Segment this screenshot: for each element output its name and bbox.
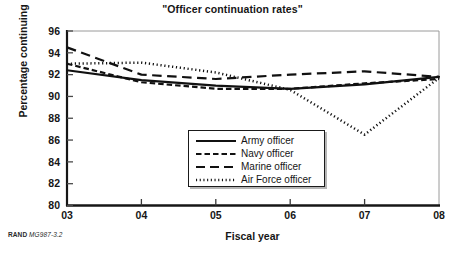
series-line <box>67 64 439 89</box>
x-tick-label: 05 <box>210 209 222 221</box>
data-series-group <box>67 47 439 134</box>
x-tick-label: 04 <box>136 209 148 221</box>
y-tick-label: 86 <box>48 134 60 146</box>
legend-swatch-long-dash-icon <box>194 161 238 173</box>
y-tick-label: 92 <box>48 68 60 80</box>
x-tick-label: 06 <box>284 209 296 221</box>
legend-swatch-dotted-icon <box>194 174 238 186</box>
legend-item: Navy officer <box>194 147 320 160</box>
y-axis-ticks: 808284868890929496 <box>48 25 73 212</box>
y-tick-label: 94 <box>48 47 60 59</box>
legend-item-label: Navy officer <box>238 148 294 160</box>
legend-swatch-solid-icon <box>194 135 238 147</box>
plot-area: 808284868890929496 030405060708 <box>0 0 465 254</box>
legend-item-label: Army officer <box>238 135 294 147</box>
y-tick-label: 82 <box>48 177 60 189</box>
legend-item-label: Air Force officer <box>238 174 311 186</box>
source-note: RAND MG987-3.2 <box>8 231 63 238</box>
legend: Army officer Navy officer Marine officer… <box>188 130 325 187</box>
series-line <box>67 47 439 79</box>
y-tick-label: 84 <box>48 156 60 168</box>
figure-container: "Officer continuation rates" Percentage … <box>0 0 465 254</box>
y-tick-label: 80 <box>48 199 60 211</box>
legend-item: Army officer <box>194 134 320 147</box>
y-tick-label: 90 <box>48 90 60 102</box>
y-tick-label: 88 <box>48 112 60 124</box>
x-tick-label: 08 <box>433 209 445 221</box>
legend-swatch-short-dash-icon <box>194 148 238 160</box>
x-tick-label: 03 <box>61 209 73 221</box>
legend-item: Marine officer <box>194 160 320 173</box>
source-document-id: MG987-3.2 <box>29 231 62 238</box>
legend-item-label: Marine officer <box>238 161 301 173</box>
x-tick-label: 07 <box>359 209 371 221</box>
legend-item: Air Force officer <box>194 173 320 186</box>
x-axis-ticks: 030405060708 <box>61 199 445 221</box>
y-tick-label: 96 <box>48 25 60 37</box>
source-brand: RAND <box>8 231 27 238</box>
